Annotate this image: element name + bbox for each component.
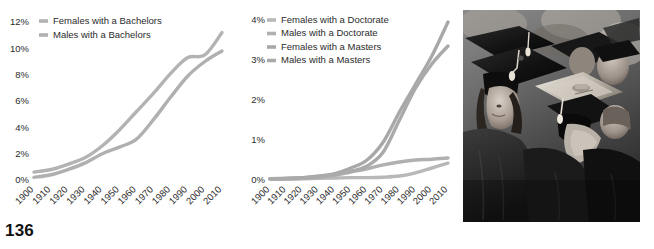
legend-label: Females with a Masters	[281, 41, 382, 52]
chart-advanced-degrees-svg: 4%3%2%1%0% 19001910192019301940195019601…	[238, 0, 464, 220]
chart-bachelors: 12%10%8%6%4%2%0% 19001910192019301940195…	[0, 0, 240, 220]
x-axis-labels-advanced: 1900191019201930194019501960197019801990…	[249, 184, 450, 207]
series-lines-bachelors	[34, 33, 222, 178]
legend-advanced: Females with a DoctorateMales with a Doc…	[267, 14, 389, 66]
graduation-ceremony-photo	[463, 10, 640, 222]
y-tick-label: 8%	[15, 69, 29, 80]
x-tick-label: 2010	[427, 184, 450, 207]
y-tick-label: 4%	[15, 122, 29, 133]
legend-bachelors: Females with a BachelorsMales with a Bac…	[39, 15, 162, 40]
y-tick-label: 12%	[10, 16, 30, 27]
y-tick-label: 3%	[251, 54, 265, 65]
x-axis-labels-bachelors: 1900191019201930194019501960197019801990…	[13, 184, 224, 207]
y-tick-label: 6%	[15, 95, 29, 106]
y-tick-label: 2%	[251, 94, 265, 105]
chart-advanced-degrees: 4%3%2%1%0% 19001910192019301940195019601…	[238, 0, 464, 220]
legend-label: Females with a Bachelors	[53, 15, 162, 26]
page-number: 136	[5, 221, 34, 241]
legend-label: Males with a Masters	[281, 54, 370, 65]
chart-bachelors-svg: 12%10%8%6%4%2%0% 19001910192019301940195…	[0, 0, 240, 220]
legend-label: Males with a Bachelors	[53, 29, 151, 40]
series-line	[34, 33, 222, 173]
series-line	[34, 51, 222, 177]
y-axis-labels-advanced: 4%3%2%1%0%	[251, 14, 265, 185]
y-tick-label: 4%	[251, 14, 265, 25]
y-tick-label: 2%	[15, 148, 29, 159]
y-tick-label: 1%	[251, 134, 265, 145]
legend-label: Females with a Doctorate	[281, 14, 389, 25]
figure-page: 12%10%8%6%4%2%0% 19001910192019301940195…	[0, 0, 654, 249]
y-axis-labels-bachelors: 12%10%8%6%4%2%0%	[10, 16, 30, 185]
photo-render	[463, 10, 640, 222]
legend-label: Males with a Doctorate	[281, 27, 378, 38]
y-tick-label: 10%	[10, 43, 30, 54]
x-tick-label: 2010	[201, 184, 224, 207]
